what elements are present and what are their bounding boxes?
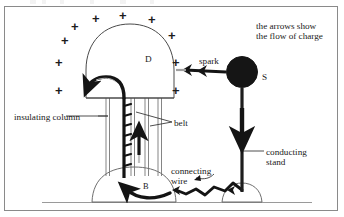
label-base-b: B — [143, 182, 149, 191]
discharge-sphere-s — [227, 57, 258, 88]
charge-plus-icon: + — [119, 9, 127, 22]
leader-lines — [66, 112, 264, 181]
label-insulating-column: insulating column — [14, 112, 80, 122]
label-belt: belt — [174, 118, 188, 128]
charge-plus-icon: + — [148, 13, 156, 26]
figure-canvas: + + + + + + + + + + the arrows show the … — [0, 0, 344, 217]
charged-dome-d — [86, 24, 174, 98]
charge-plus-icon: + — [55, 84, 63, 97]
charge-plus-icon: + — [55, 56, 63, 69]
label-spark: spark — [199, 56, 219, 66]
charge-plus-icon: + — [172, 84, 180, 97]
charge-plus-icon: + — [92, 12, 100, 25]
charge-plus-icon: + — [61, 34, 69, 47]
label-sphere-s: S — [262, 72, 267, 82]
label-conducting-stand: conducting stand — [266, 147, 307, 168]
charge-plus-icon: + — [172, 56, 180, 69]
insulating-column — [106, 98, 162, 176]
charge-plus-icon: + — [71, 20, 79, 33]
belt-charge-line — [124, 98, 131, 178]
label-dome-d: D — [145, 54, 152, 64]
charge-plus-icon: + — [168, 29, 176, 42]
label-connecting-wire: connecting wire — [171, 166, 211, 187]
annotation-arrows-note: the arrows show the flow of charge — [256, 21, 323, 42]
